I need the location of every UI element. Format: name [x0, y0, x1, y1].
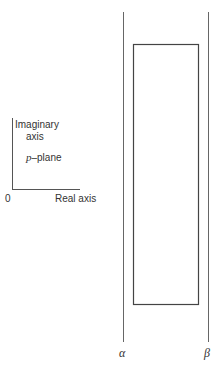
- alpha-label: α: [119, 346, 125, 361]
- diagram-canvas: [0, 0, 220, 366]
- beta-label: β: [204, 346, 210, 361]
- rectangular-contour: [134, 45, 199, 305]
- imaginary-axis-label-line1: Imaginary: [15, 119, 59, 130]
- imaginary-axis-label-line2: axis: [26, 131, 44, 142]
- plane-text: –plane: [32, 152, 62, 163]
- real-axis-label: Real axis: [55, 193, 96, 204]
- p-plane-label: p–plane: [26, 151, 62, 163]
- origin-label: 0: [5, 193, 11, 204]
